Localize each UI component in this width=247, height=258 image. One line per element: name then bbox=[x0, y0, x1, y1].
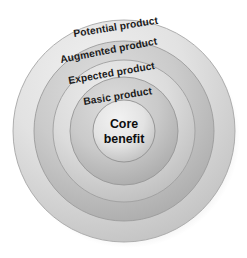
product-levels-diagram: Potential product Augmented product Expe… bbox=[0, 0, 247, 258]
circle-core-benefit bbox=[93, 100, 155, 162]
label-core-benefit-line2: benefit bbox=[104, 132, 145, 146]
concentric-circles-canvas: Potential product Augmented product Expe… bbox=[0, 0, 247, 258]
label-core-benefit-line1: Core bbox=[110, 117, 138, 131]
